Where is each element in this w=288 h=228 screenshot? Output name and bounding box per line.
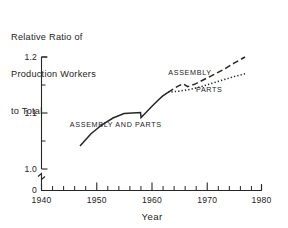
y-axis-break-label: 0 (32, 185, 37, 195)
data-series-group (80, 57, 245, 146)
series-annotation-assembly: ASSEMBLY (168, 68, 211, 77)
plot-area: 1.2 1.1 1.0 0 (0, 0, 288, 228)
x-tick-label-1970: 1970 (197, 195, 217, 205)
x-tick-label-1960: 1960 (142, 195, 162, 205)
x-tick-label-1980: 1980 (252, 195, 272, 205)
x-tick-label-1940: 1940 (32, 195, 52, 205)
chart-figure: Relative Ratio of Production Workers to … (0, 0, 288, 228)
y-tick-label-1.1: 1.1 (24, 108, 37, 118)
y-ticks-major (42, 57, 48, 169)
x-tick-label-1950: 1950 (87, 195, 107, 205)
series-annotation-parts: PARTS (196, 85, 223, 94)
x-axis-title: Year (142, 211, 163, 222)
y-tick-label-1.0: 1.0 (24, 164, 37, 174)
y-axis-break-icon (38, 174, 45, 180)
series-annotation-assembly-and-parts: ASSEMBLY AND PARTS (70, 120, 162, 129)
y-tick-label-1.2: 1.2 (24, 52, 37, 62)
